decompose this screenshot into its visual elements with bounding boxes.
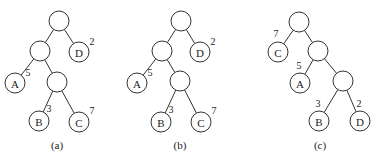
tree-caption: (a) [51,139,64,152]
node-weight: 2 [90,36,95,47]
node-label: B [35,116,42,128]
node-label: A [11,78,19,90]
node-weight: 7 [90,105,95,116]
tree-caption: (b) [174,139,187,152]
node-label: C [75,117,82,129]
tree-edge [45,60,52,73]
tree-edge [305,60,313,75]
node-weight: 7 [274,28,279,39]
node-weight: 5 [148,67,153,78]
internal-node [308,41,328,61]
tree-caption: (c) [314,139,327,152]
tree-edge [62,91,74,113]
node-weight: 2 [357,98,362,109]
tree-edge [185,90,197,113]
tree-b: D2A5B3C7(b) [127,11,217,152]
tree-edge [167,60,175,73]
node-label: C [197,117,204,129]
internal-node [49,11,69,31]
tree-a: D2A5B3C7(a) [5,11,95,152]
node-label: B [315,116,322,128]
tree-edge [45,29,53,42]
node-weight: 3 [316,98,321,109]
node-label: C [274,47,281,59]
tree-edge [304,30,312,42]
tree-edge [64,29,73,43]
node-label: D [75,47,83,59]
node-label: A [133,78,141,90]
internal-node [152,41,172,61]
node-weight: 2 [211,36,216,47]
internal-node [47,72,67,92]
internal-node [30,41,50,61]
internal-node [171,11,191,31]
node-label: A [296,78,304,90]
tree-edge [167,29,175,42]
node-weight: 3 [47,103,52,114]
internal-node [333,71,353,91]
node-label: D [356,116,364,128]
node-weight: 5 [297,60,302,71]
tree-edge [347,90,356,112]
tree-edge [284,30,294,44]
tree-edge [324,90,338,113]
node-weight: 5 [26,67,31,78]
tree-c: C7A5B3D2(c) [268,12,370,152]
node-label: B [157,117,164,129]
tree-edge [324,59,336,74]
huffman-trees-diagram: D2A5B3C7(a) D2A5B3C7(b) C7A5B3D2(c) [0,0,385,160]
node-weight: 7 [212,105,217,116]
tree-edge [186,30,195,44]
internal-node [170,71,190,91]
internal-node [289,12,309,32]
node-label: D [196,47,204,59]
node-weight: 3 [169,104,174,115]
